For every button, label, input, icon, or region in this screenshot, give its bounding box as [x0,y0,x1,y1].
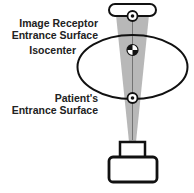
isocenter-icon [127,45,138,56]
label-patient-line2: Entrance Surface [12,104,98,116]
label-patient-entrance: Patient's Entrance Surface [12,92,98,116]
label-patient-line1: Patient's [12,92,98,104]
label-isocenter: Isocenter [29,44,76,56]
label-receptor-line1: Image Receptor [12,17,98,29]
label-image-receptor: Image Receptor Entrance Surface [12,17,98,41]
xray-tube-housing [109,157,157,182]
label-receptor-line2: Entrance Surface [12,29,98,41]
